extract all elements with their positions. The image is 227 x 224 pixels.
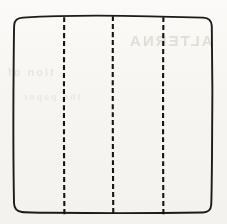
figure-root: ALTERNA tion of the paper bbox=[0, 0, 227, 224]
panel-1 bbox=[14, 17, 64, 212]
panel-3 bbox=[113, 17, 163, 212]
panel-4 bbox=[163, 17, 212, 212]
diagram-canvas bbox=[0, 0, 227, 224]
panel-2 bbox=[64, 17, 113, 212]
